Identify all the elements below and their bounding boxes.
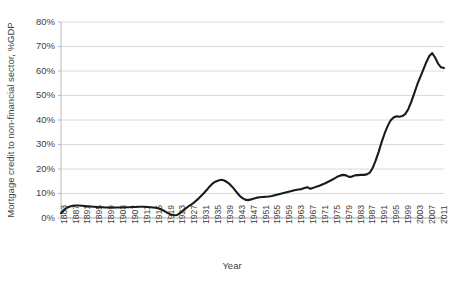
x-tick-label: 1987 xyxy=(367,205,377,224)
x-tick-label: 1995 xyxy=(391,205,401,224)
x-tick-label: 1999 xyxy=(403,205,413,224)
x-tick-label: 1947 xyxy=(249,205,259,224)
x-tick-label: 1891 xyxy=(82,205,92,224)
x-axis-title: Year xyxy=(222,260,241,271)
x-tick-label: 1963 xyxy=(296,205,306,224)
data-series-group xyxy=(61,53,444,215)
x-tick-label: 1935 xyxy=(213,205,223,224)
x-tick-label: 1971 xyxy=(320,205,330,224)
y-tick-label: 20% xyxy=(36,163,56,174)
x-tick-label: 1951 xyxy=(261,205,271,224)
y-axis-title: Mortgage credit to non-financial sector,… xyxy=(5,22,16,217)
y-tick-label: 70% xyxy=(36,40,56,51)
x-tick-label: 1959 xyxy=(284,205,294,224)
gridlines-group xyxy=(61,22,444,218)
y-tick-label: 30% xyxy=(36,138,56,149)
y-axis-ticks-group: 0%10%20%30%40%50%60%70%80% xyxy=(36,16,61,223)
x-tick-label: 1931 xyxy=(201,205,211,224)
line-chart: 0%10%20%30%40%50%60%70%80% 1883188718911… xyxy=(0,0,449,282)
x-tick-label: 1927 xyxy=(189,205,199,224)
y-tick-label: 10% xyxy=(36,187,56,198)
x-tick-label: 1939 xyxy=(225,205,235,224)
x-tick-label: 2003 xyxy=(415,205,425,224)
x-tick-label: 2011 xyxy=(439,205,449,224)
y-tick-label: 60% xyxy=(36,65,56,76)
x-tick-label: 2007 xyxy=(427,205,437,224)
x-tick-label: 1975 xyxy=(332,205,342,224)
x-tick-label: 1991 xyxy=(379,205,389,224)
y-tick-label: 40% xyxy=(36,114,56,125)
x-tick-label: 1943 xyxy=(237,205,247,224)
y-tick-label: 0% xyxy=(41,212,55,223)
chart-container: 0%10%20%30%40%50%60%70%80% 1883188718911… xyxy=(0,0,449,282)
y-tick-label: 80% xyxy=(36,16,56,27)
x-tick-label: 1983 xyxy=(356,205,366,224)
x-tick-label: 1955 xyxy=(272,205,282,224)
x-tick-label: 1967 xyxy=(308,205,318,224)
x-tick-label: 1979 xyxy=(344,205,354,224)
x-tick-label: 1887 xyxy=(71,205,81,224)
series-line-0 xyxy=(61,53,444,215)
y-tick-label: 50% xyxy=(36,89,56,100)
